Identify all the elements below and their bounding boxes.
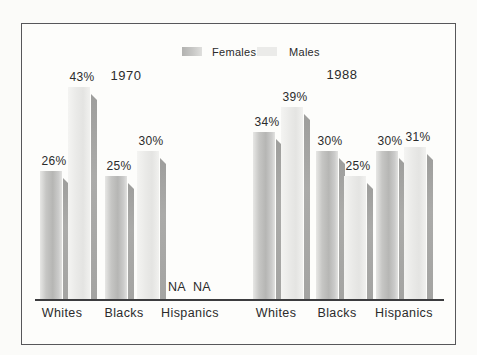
category-label-1988-hispanics: Hispanics <box>364 306 444 320</box>
value-label-1970-blacks-females: 25% <box>97 159 141 173</box>
legend-label-females: Females <box>212 46 256 58</box>
bar-1988-blacks-females <box>316 151 338 300</box>
value-label-1988-blacks-males: 25% <box>336 159 380 173</box>
bar-1988-whites-males <box>281 107 303 300</box>
year-label-1988: 1988 <box>312 67 372 82</box>
bar-shadow-1970-whites-males <box>91 94 97 300</box>
figure-canvas: Females Males 1970 1988 Whites26%43%Blac… <box>0 0 477 355</box>
value-label-1988-hispanics-males: 31% <box>396 130 440 144</box>
legend-label-males: Males <box>289 46 320 58</box>
bar-1988-hispanics-males <box>404 147 426 300</box>
bar-shadow-1988-hispanics-males <box>427 154 433 300</box>
na-label-1970-hispanics-males: NA <box>189 280 215 294</box>
bar-shadow-1970-blacks-females <box>128 183 134 300</box>
na-label-1970-hispanics-females: NA <box>164 280 190 294</box>
bar-1970-blacks-males <box>137 151 159 300</box>
bar-1970-whites-males <box>68 87 90 300</box>
legend-swatch-females <box>182 47 202 56</box>
bar-shadow-1988-blacks-males <box>367 183 373 300</box>
category-label-1970-hispanics: Hispanics <box>150 306 230 320</box>
legend-swatch-males <box>257 47 277 56</box>
bar-1970-whites-females <box>40 171 62 300</box>
bar-shadow-1970-blacks-males <box>160 158 166 300</box>
bar-1970-blacks-females <box>105 176 127 300</box>
bar-1988-blacks-males <box>344 176 366 300</box>
value-label-1970-whites-males: 43% <box>60 70 104 84</box>
bar-1988-hispanics-females <box>376 151 398 300</box>
value-label-1988-whites-males: 39% <box>273 90 317 104</box>
value-label-1988-blacks-females: 30% <box>308 134 352 148</box>
value-label-1970-blacks-males: 30% <box>129 134 173 148</box>
x-axis-line <box>35 299 444 301</box>
year-label-1970: 1970 <box>96 68 156 83</box>
bar-1988-whites-females <box>253 132 275 300</box>
